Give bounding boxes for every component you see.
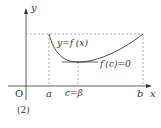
- x-axis-label: x: [150, 89, 156, 99]
- curve-label: y=f (x): [57, 39, 88, 48]
- tick-a: a: [46, 89, 52, 99]
- tangent-label: f′(c)=0: [100, 60, 131, 69]
- origin-label: O: [15, 89, 23, 99]
- figure-caption: (2): [17, 106, 30, 115]
- y-axis-label: y: [31, 3, 37, 13]
- tick-c: c=β: [65, 89, 83, 98]
- tick-b: b: [137, 89, 143, 99]
- y-axis-arrow-icon: [24, 8, 28, 14]
